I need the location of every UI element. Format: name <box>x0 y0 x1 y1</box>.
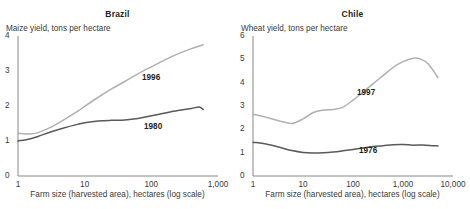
x-tick-label: 10,000 <box>440 181 465 189</box>
x-axis-caption-chile: Farm size (harvested area), hectares (lo… <box>235 190 470 199</box>
y-tick-label: 3 <box>5 67 19 75</box>
panel-title-brazil: Brazil <box>0 9 235 19</box>
plot-svg-chile <box>253 36 453 176</box>
x-tick-label: 1 <box>16 181 21 189</box>
x-tick-label: 100 <box>144 181 158 189</box>
chart-figure: Brazil Maize yield, tons per hectare 012… <box>0 0 470 209</box>
y-axis-title-brazil: Maize yield, tons per hectare <box>6 24 111 33</box>
x-tick-label: 10 <box>80 181 89 189</box>
x-tick-label: 1 <box>251 181 256 189</box>
panel-chile: Chile Wheat yield, tons per hectare 0123… <box>235 0 470 209</box>
plot-area-chile <box>253 36 453 176</box>
y-tick-label: 1 <box>5 137 19 145</box>
x-axis-caption-brazil: Farm size (harvested area), hectares (lo… <box>0 190 235 199</box>
series-annotation-1976: 1976 <box>359 147 377 155</box>
y-axis-title-chile: Wheat yield, tons per hectare <box>241 24 348 33</box>
panel-title-chile: Chile <box>235 9 470 19</box>
y-tick-label: 2 <box>5 102 19 110</box>
series-line-1980 <box>18 107 203 141</box>
y-tick-label: 1 <box>240 149 254 157</box>
x-tick-label: 1,000 <box>208 181 229 189</box>
x-tick-label: 100 <box>346 181 360 189</box>
y-tick-label: 6 <box>240 32 254 40</box>
axis-lines <box>253 36 453 176</box>
y-tick-label: 0 <box>5 172 19 180</box>
panel-brazil: Brazil Maize yield, tons per hectare 012… <box>0 0 235 209</box>
y-tick-label: 4 <box>240 79 254 87</box>
series-line-1997 <box>253 58 438 124</box>
axis-lines <box>18 36 218 176</box>
y-tick-label: 4 <box>5 32 19 40</box>
y-tick-label: 2 <box>240 125 254 133</box>
series-line-1976 <box>253 142 438 153</box>
plot-area-brazil <box>18 36 218 176</box>
series-annotation-1996: 1996 <box>142 74 160 82</box>
x-tick-label: 1,000 <box>393 181 414 189</box>
x-tick-label: 10 <box>298 181 307 189</box>
series-annotation-1997: 1997 <box>357 89 375 97</box>
plot-svg-brazil <box>18 36 218 176</box>
y-tick-label: 0 <box>240 172 254 180</box>
y-tick-label: 5 <box>240 55 254 63</box>
y-tick-label: 3 <box>240 102 254 110</box>
series-annotation-1980: 1980 <box>144 123 162 131</box>
